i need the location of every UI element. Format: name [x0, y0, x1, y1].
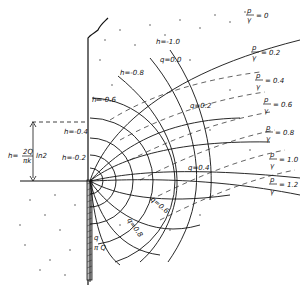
svg-text:h=: h= — [8, 152, 18, 160]
head-label-5: h=-0.2 — [62, 154, 87, 162]
svg-text:= 1.2: = 1.2 — [279, 181, 299, 189]
head-label-4: h=-0.4 — [64, 128, 88, 136]
head-label-3: h=-0.6 — [92, 96, 117, 104]
pressure-label-6: p γ = 1.2 — [269, 176, 299, 196]
svg-text:ln2: ln2 — [36, 152, 47, 160]
svg-text:p: p — [246, 7, 252, 15]
svg-text:p: p — [263, 96, 269, 104]
svg-text:= 0.6: = 0.6 — [273, 101, 293, 109]
flow-label-0: q=0.0 — [160, 56, 182, 64]
svg-text:= 0.4: = 0.4 — [265, 77, 284, 85]
pressure-label-0: p γ = 0 — [246, 7, 269, 24]
svg-text:= 0.2: = 0.2 — [261, 49, 281, 57]
svg-text:γ: γ — [264, 107, 269, 115]
svg-text:= 1.0: = 1.0 — [279, 156, 299, 164]
flow-label-2: q=0.4 — [188, 164, 209, 172]
flow-label-1: q=0.2 — [190, 102, 212, 110]
svg-text:= 0.8: = 0.8 — [275, 129, 295, 137]
svg-text:γ: γ — [270, 188, 275, 196]
flow-label-5: q — [94, 234, 99, 242]
pressure-label-4: p γ = 0.8 — [265, 124, 295, 143]
svg-text:p: p — [269, 176, 275, 184]
flow-label-4: q=0.8 — [125, 217, 144, 240]
svg-text:πk: πk — [23, 157, 32, 165]
svg-text:p: p — [255, 72, 261, 80]
svg-text:p: p — [265, 124, 271, 132]
pressure-label-5: p γ = 1.0 — [269, 151, 299, 170]
flow-label-5-den: π Q — [94, 244, 106, 252]
head-label-2: h=-0.8 — [120, 69, 145, 77]
svg-text:= 0: = 0 — [256, 12, 269, 20]
pressure-label-2: p γ = 0.4 — [255, 72, 284, 91]
svg-text:γ: γ — [266, 135, 271, 143]
svg-text:p: p — [251, 44, 257, 52]
svg-text:γ: γ — [252, 54, 257, 62]
pressure-label-3: p γ = 0.6 — [263, 96, 293, 115]
equipotential-lines — [90, 50, 211, 262]
flow-net-diagram: h=-1.0 h=-0.8 h=-0.6 h=-0.4 h=-0.2 q=0.0… — [0, 0, 306, 287]
svg-text:γ: γ — [270, 162, 275, 170]
head-label-1: h=-1.0 — [156, 38, 181, 46]
svg-text:2Q: 2Q — [23, 148, 33, 156]
svg-text:γ: γ — [256, 83, 261, 91]
dimension-label: h= 2Q πk ln2 — [8, 148, 47, 165]
svg-text:p: p — [269, 151, 275, 159]
svg-text:γ: γ — [247, 16, 252, 24]
